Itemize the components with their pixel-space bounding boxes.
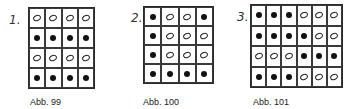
figure-number: 2.: [131, 11, 142, 25]
grid-cell: [297, 46, 312, 67]
grid-cell: [327, 67, 342, 88]
filled-dot-icon: [256, 74, 262, 80]
grid-cell: [45, 48, 61, 68]
grid-cell: [78, 28, 94, 48]
grid-cell: [281, 26, 296, 47]
grid-cell: [62, 8, 78, 28]
dot-grid: [143, 6, 214, 84]
grid-cell: [281, 46, 296, 67]
grid-cell: [196, 45, 213, 64]
filled-dot-icon: [150, 33, 156, 39]
grid-cell: [78, 8, 94, 28]
grid-cell: [161, 26, 178, 45]
dot-grid: [250, 4, 343, 88]
grid-cell: [62, 68, 78, 88]
filled-dot-icon: [150, 14, 156, 20]
grid-cell: [144, 7, 161, 26]
open-circle-icon: [330, 11, 340, 20]
open-circle-icon: [65, 54, 75, 63]
grid-cell: [196, 7, 213, 26]
grid-cell: [62, 28, 78, 48]
dot-grid: [28, 7, 95, 89]
filled-dot-icon: [256, 12, 262, 18]
open-circle-icon: [314, 72, 324, 81]
open-circle-icon: [199, 50, 209, 59]
open-circle-icon: [269, 52, 279, 61]
grid-cell: [312, 5, 327, 26]
filled-dot-icon: [67, 75, 73, 81]
grid-cell: [29, 28, 45, 48]
open-circle-icon: [182, 31, 192, 40]
open-circle-icon: [81, 14, 91, 23]
grid-cell: [29, 8, 45, 28]
grid-cell: [281, 67, 296, 88]
figure-caption: Abb. 99: [30, 97, 61, 107]
filled-dot-icon: [83, 75, 89, 81]
open-circle-icon: [314, 11, 324, 20]
filled-dot-icon: [167, 71, 173, 77]
grid-cell: [161, 45, 178, 64]
open-circle-icon: [48, 14, 58, 23]
grid-cell: [144, 45, 161, 64]
filled-dot-icon: [271, 74, 277, 80]
filled-dot-icon: [201, 14, 207, 20]
filled-dot-icon: [331, 53, 337, 59]
grid-cell: [327, 5, 342, 26]
grid-cell: [312, 46, 327, 67]
grid-cell: [78, 68, 94, 88]
open-circle-icon: [48, 54, 58, 63]
grid-cell: [179, 64, 196, 83]
filled-dot-icon: [67, 35, 73, 41]
grid-cell: [196, 64, 213, 83]
figure-caption: Abb. 101: [253, 97, 289, 107]
grid-cell: [144, 26, 161, 45]
grid-cell: [45, 68, 61, 88]
open-circle-icon: [32, 54, 42, 63]
grid-cell: [251, 46, 266, 67]
grid-cell: [297, 5, 312, 26]
grid-cell: [29, 48, 45, 68]
grid-cell: [327, 26, 342, 47]
filled-dot-icon: [271, 33, 277, 39]
grid-cell: [62, 48, 78, 68]
grid-cell: [179, 26, 196, 45]
open-circle-icon: [284, 52, 294, 61]
figure-number: 3.: [237, 10, 248, 24]
grid-cell: [179, 7, 196, 26]
open-circle-icon: [165, 50, 175, 59]
grid-cell: [266, 26, 281, 47]
open-circle-icon: [65, 14, 75, 23]
grid-cell: [281, 5, 296, 26]
grid-cell: [161, 7, 178, 26]
open-circle-icon: [314, 31, 324, 40]
filled-dot-icon: [301, 33, 307, 39]
open-circle-icon: [299, 11, 309, 20]
open-circle-icon: [182, 50, 192, 59]
grid-cell: [251, 26, 266, 47]
filled-dot-icon: [83, 35, 89, 41]
figure-caption: Abb. 100: [143, 97, 179, 107]
open-circle-icon: [330, 31, 340, 40]
grid-cell: [266, 67, 281, 88]
grid-cell: [251, 67, 266, 88]
grid-cell: [161, 64, 178, 83]
filled-dot-icon: [50, 35, 56, 41]
filled-dot-icon: [34, 35, 40, 41]
filled-dot-icon: [50, 75, 56, 81]
grid-cell: [266, 46, 281, 67]
filled-dot-icon: [271, 12, 277, 18]
open-circle-icon: [165, 31, 175, 40]
grid-cell: [297, 26, 312, 47]
grid-cell: [45, 28, 61, 48]
grid-cell: [29, 68, 45, 88]
open-circle-icon: [182, 12, 192, 21]
grid-cell: [179, 45, 196, 64]
open-circle-icon: [330, 72, 340, 81]
grid-cell: [196, 26, 213, 45]
filled-dot-icon: [286, 12, 292, 18]
grid-cell: [312, 26, 327, 47]
grid-cell: [45, 8, 61, 28]
open-circle-icon: [299, 72, 309, 81]
grid-cell: [266, 5, 281, 26]
filled-dot-icon: [301, 53, 307, 59]
